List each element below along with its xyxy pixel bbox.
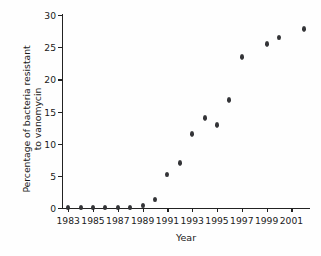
x-tick-label-1989: 1989	[131, 215, 154, 226]
y-axis-title-line-2: to vanomycin	[33, 88, 44, 151]
y-tick-label: 5	[50, 170, 56, 181]
x-tick-label-2001: 2001	[280, 215, 303, 226]
x-tick-mark	[68, 209, 69, 213]
x-axis-title: Year	[62, 232, 310, 243]
x-tick-mark	[267, 209, 268, 213]
data-point	[240, 54, 244, 60]
x-tick-label-1999: 1999	[255, 215, 278, 226]
y-tick-label: 30	[44, 10, 56, 21]
plot-area: 051015202530	[62, 15, 310, 208]
x-axis-ticks: 1983198519871989199119931995199719992001	[62, 209, 310, 231]
x-tick-mark	[291, 209, 292, 213]
data-point	[190, 131, 194, 137]
x-tick-mark	[242, 209, 243, 213]
data-point	[227, 97, 231, 103]
data-point	[165, 172, 169, 178]
y-tick-label: 20	[44, 74, 56, 85]
x-tick-label-1987: 1987	[106, 215, 129, 226]
y-tick-label: 25	[44, 42, 56, 53]
data-point	[178, 160, 182, 166]
x-tick-label-1991: 1991	[156, 215, 179, 226]
y-tick-mark	[58, 144, 62, 145]
y-tick-mark	[58, 15, 62, 16]
y-tick-mark	[58, 47, 62, 48]
x-tick-label-1997: 1997	[230, 215, 253, 226]
y-tick-label: 10	[44, 138, 56, 149]
data-point	[203, 115, 207, 121]
y-tick-label: 15	[44, 106, 56, 117]
data-point	[302, 26, 306, 32]
x-tick-label-1985: 1985	[81, 215, 104, 226]
x-tick-mark	[93, 209, 94, 213]
data-point	[277, 35, 281, 41]
data-point	[215, 122, 219, 128]
x-tick-mark	[192, 209, 193, 213]
x-tick-label-1983: 1983	[56, 215, 79, 226]
data-point	[141, 203, 145, 209]
x-tick-mark	[118, 209, 119, 213]
y-tick-label: 0	[50, 203, 56, 214]
x-tick-mark	[143, 209, 144, 213]
x-tick-mark	[167, 209, 168, 213]
x-tick-label-1993: 1993	[180, 215, 203, 226]
vancomycin-resistance-scatter-chart: Percentage of bacteria resistant to vano…	[0, 0, 321, 256]
x-tick-mark	[217, 209, 218, 213]
x-tick-label-1995: 1995	[205, 215, 228, 226]
data-point	[265, 41, 269, 47]
y-tick-mark	[58, 176, 62, 177]
data-point	[153, 197, 157, 203]
y-tick-mark	[58, 112, 62, 113]
y-tick-mark	[58, 79, 62, 80]
